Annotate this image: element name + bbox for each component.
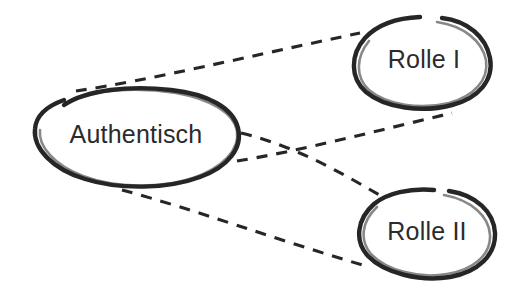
concept-map-svg: Authentisch Rolle I Rolle II [0,0,523,293]
edge-authentisch-rolle2-upper [241,133,381,196]
node-rolle-1[interactable]: Rolle I [354,17,491,109]
edge-authentisch-rolle2-bottom [122,190,366,266]
authentisch-label: Authentisch [70,120,203,148]
rolle-1-label: Rolle I [388,45,460,73]
edge-authentisch-rolle1-lower [237,113,452,161]
edge-authentisch-rolle1-top [76,33,360,91]
rolle-2-label: Rolle II [387,217,466,245]
diagram-canvas: Authentisch Rolle I Rolle II [0,0,523,293]
node-authentisch[interactable]: Authentisch [35,88,239,187]
node-rolle-2[interactable]: Rolle II [359,190,495,279]
